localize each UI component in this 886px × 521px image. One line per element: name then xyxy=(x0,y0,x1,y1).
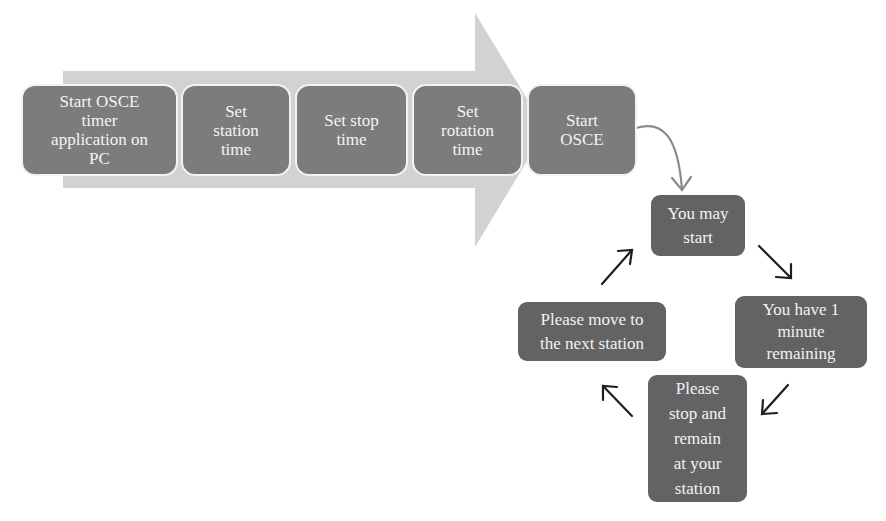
cycle-label: You have 1 minute remaining xyxy=(763,299,840,365)
cycle-move-next-station: Please move to the next station xyxy=(518,302,666,361)
step-start-osce: Start OSCE xyxy=(527,84,637,176)
step-set-station-time: Set station time xyxy=(181,84,291,176)
cycle-label: Please move to the next station xyxy=(540,308,644,356)
step-start-app: Start OSCE timer application on PC xyxy=(21,84,178,176)
cycle-stop-and-remain: Please stop and remain at your station xyxy=(648,375,747,502)
cycle-you-may-start: You may start xyxy=(651,195,745,256)
arrow-up-left-icon xyxy=(603,386,632,416)
step-label: Set rotation time xyxy=(441,102,494,159)
diagram-connectors xyxy=(0,0,886,521)
step-label: Set station time xyxy=(213,102,258,159)
step-set-stop-time: Set stop time xyxy=(295,84,408,176)
arrow-up-right-icon xyxy=(602,250,632,284)
arrow-down-right-icon xyxy=(759,246,791,278)
cycle-one-minute-remaining: You have 1 minute remaining xyxy=(735,296,867,368)
osce-diagram: Start OSCE timer application on PC Set s… xyxy=(0,0,886,521)
cycle-label: Please stop and remain at your station xyxy=(669,376,726,501)
step-label: Start OSCE xyxy=(560,111,603,149)
curved-connector-arrow-icon xyxy=(636,126,691,190)
cycle-label: You may start xyxy=(667,202,728,250)
step-label: Set stop time xyxy=(324,111,378,149)
step-label: Start OSCE timer application on PC xyxy=(51,92,148,168)
arrow-down-left-icon xyxy=(762,385,788,414)
step-set-rotation-time: Set rotation time xyxy=(412,84,523,176)
